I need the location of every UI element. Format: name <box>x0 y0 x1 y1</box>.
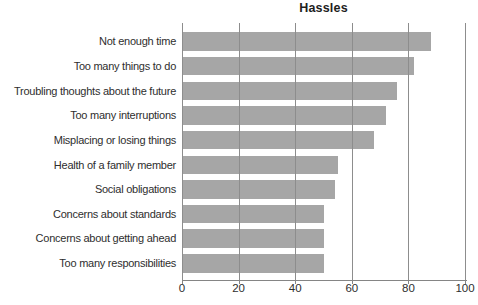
category-label: Social obligations <box>95 180 176 199</box>
category-label: Too many interruptions <box>70 106 176 125</box>
gridline <box>239 23 240 280</box>
tick-label: 100 <box>448 282 478 294</box>
gridline <box>295 23 296 280</box>
category-label: Concerns about standards <box>53 205 176 224</box>
bar <box>182 205 324 224</box>
chart-title: Hassles <box>182 1 465 15</box>
bar <box>182 156 338 175</box>
gridline <box>352 23 353 280</box>
bar <box>182 57 414 76</box>
category-label: Concerns about getting ahead <box>36 229 176 248</box>
hassles-horizontal-bar-chart: Hassles 020406080100 Not enough timeToo … <box>0 0 478 305</box>
plot-area <box>182 23 465 280</box>
category-label: Misplacing or losing things <box>54 131 176 150</box>
tick-label: 0 <box>165 282 199 294</box>
x-axis-line <box>182 280 467 281</box>
bar <box>182 254 324 273</box>
bar <box>182 82 397 101</box>
tick-label: 20 <box>222 282 256 294</box>
gridline <box>465 23 466 280</box>
category-label: Not enough time <box>99 32 176 51</box>
bar <box>182 229 324 248</box>
bar <box>182 131 374 150</box>
category-label: Too many responsibilities <box>59 254 176 273</box>
category-label: Health of a family member <box>54 156 176 175</box>
tick-label: 40 <box>278 282 312 294</box>
tick-label: 60 <box>335 282 369 294</box>
bar <box>182 106 386 125</box>
tick-label: 80 <box>391 282 425 294</box>
gridline <box>182 23 183 280</box>
bar <box>182 32 431 51</box>
gridline <box>408 23 409 280</box>
category-label: Troubling thoughts about the future <box>14 82 176 101</box>
category-label: Too many things to do <box>74 57 176 76</box>
bar <box>182 180 335 199</box>
